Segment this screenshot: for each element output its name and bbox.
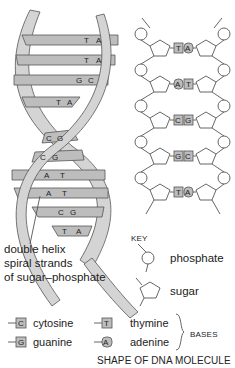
svg-text:C: C (40, 153, 46, 162)
svg-text:A: A (67, 98, 73, 107)
svg-text:T: T (176, 44, 181, 53)
key-guanine-label: guanine (33, 336, 72, 349)
ladder-row: TA (135, 28, 230, 64)
dna-ladder-schematic: TA AT CG (135, 18, 230, 214)
svg-text:G: G (18, 338, 24, 347)
svg-text:C: C (185, 152, 191, 161)
ladder-row: TA (135, 172, 230, 214)
svg-text:A: A (44, 171, 50, 180)
bases-brace (176, 314, 184, 350)
svg-text:T: T (60, 171, 65, 180)
svg-text:G: G (185, 116, 191, 125)
svg-text:C: C (175, 116, 181, 125)
svg-text:A: A (175, 80, 181, 89)
caption-line: double helix (4, 242, 134, 256)
key-phosphate-symbol (138, 244, 154, 272)
svg-text:A: A (185, 188, 191, 197)
svg-text:C: C (46, 134, 52, 143)
svg-text:A: A (103, 338, 109, 347)
ladder-row: CG (135, 100, 230, 136)
svg-text:G: G (57, 134, 63, 143)
key-sugar-symbol (136, 278, 160, 306)
key-adenine-label: adenine (130, 336, 169, 349)
svg-text:G: G (76, 76, 82, 85)
key-cytosine-label: cytosine (33, 317, 73, 330)
svg-text:C: C (58, 208, 64, 217)
key-thymine-label: thymine (130, 317, 169, 330)
svg-text:T: T (62, 227, 67, 236)
svg-text:C: C (18, 319, 24, 328)
svg-text:A: A (76, 227, 82, 236)
svg-text:A: A (46, 189, 52, 198)
svg-text:A: A (96, 56, 102, 65)
ladder-row: AT (135, 64, 230, 100)
svg-text:T: T (186, 80, 191, 89)
svg-text:G: G (175, 152, 181, 161)
caption-leader-line (30, 196, 40, 244)
svg-text:A: A (185, 44, 191, 53)
svg-text:T: T (84, 36, 89, 45)
svg-text:T: T (56, 98, 61, 107)
svg-text:G: G (52, 153, 58, 162)
svg-text:A: A (96, 36, 102, 45)
svg-text:T: T (176, 188, 181, 197)
key-heading: KEY (131, 232, 148, 245)
key-bases-label: BASES (190, 328, 218, 341)
svg-text:T: T (104, 319, 109, 328)
caption-line: spiral strands (4, 256, 134, 270)
svg-text:T: T (84, 56, 89, 65)
diagram-title: SHAPE OF DNA MOLECULE (97, 354, 231, 367)
svg-text:C: C (88, 76, 94, 85)
key-sugar-label: sugar (170, 285, 199, 298)
caption-line: of sugar–phosphate (4, 270, 134, 284)
ladder-row: GC (135, 136, 230, 172)
svg-text:G: G (70, 208, 76, 217)
double-helix-illustration: .strand { fill: #d4d4d4; stroke: #555; s… (0, 0, 235, 368)
helix-caption: double helix spiral strands of sugar–pho… (4, 242, 134, 284)
key-phosphate-label: phosphate (170, 252, 224, 265)
svg-text:T: T (62, 189, 67, 198)
